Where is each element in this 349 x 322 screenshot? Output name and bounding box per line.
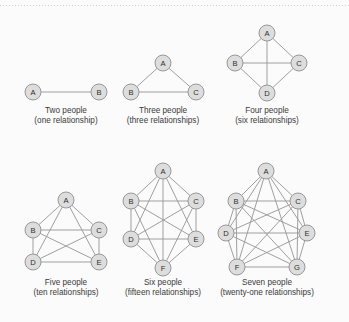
edge-DF <box>137 244 157 262</box>
caption-line1: Five people <box>45 278 88 287</box>
edge-EF <box>169 244 190 262</box>
node-label: D <box>264 89 270 98</box>
edge-AC <box>169 68 190 86</box>
node-label: F <box>161 264 166 273</box>
node-C: C <box>91 222 107 238</box>
graph-four-people: ABCDFour people(six relationships) <box>227 25 307 125</box>
caption-line2: (three relationships) <box>127 116 200 125</box>
node-C: C <box>291 55 307 71</box>
node-B: B <box>123 193 139 209</box>
edge-AB <box>241 38 261 57</box>
node-label: C <box>193 197 199 206</box>
node-label: B <box>232 59 237 68</box>
caption-line1: Three people <box>139 106 188 115</box>
node-label: B <box>233 197 238 206</box>
node-F: F <box>229 259 245 275</box>
node-A: A <box>25 84 41 100</box>
node-E: E <box>91 254 107 270</box>
edge-group <box>241 38 293 87</box>
caption-line1: Seven people <box>242 278 293 287</box>
node-A: A <box>58 192 74 208</box>
edge-AB <box>137 176 157 195</box>
node-B: B <box>227 55 243 71</box>
node-label: E <box>193 235 198 244</box>
caption-line2: (fifteen relationships) <box>125 288 201 297</box>
node-A: A <box>155 163 171 179</box>
node-B: B <box>25 222 41 238</box>
node-F: F <box>155 260 171 276</box>
node-label: C <box>96 226 102 235</box>
node-C: C <box>290 193 306 209</box>
edge-AB <box>137 68 157 86</box>
node-C: C <box>188 193 204 209</box>
node-label: B <box>30 226 35 235</box>
edge-AB <box>242 177 261 196</box>
node-E: E <box>188 231 204 247</box>
node-A: A <box>155 55 171 71</box>
node-D: D <box>123 231 139 247</box>
node-label: D <box>30 258 36 267</box>
caption-line1: Six people <box>144 278 183 287</box>
node-B: B <box>91 84 107 100</box>
edge-group <box>137 68 190 92</box>
edge-AC <box>273 38 293 57</box>
caption-line1: Four people <box>245 106 289 115</box>
node-B: B <box>123 84 139 100</box>
caption-line2: (twenty-one relationships) <box>220 288 314 297</box>
edge-group <box>131 176 196 262</box>
edge-DF <box>228 241 234 260</box>
node-label: E <box>304 229 309 238</box>
edge-EG <box>299 241 304 260</box>
edge-AC <box>72 205 93 224</box>
node-A: A <box>258 163 274 179</box>
node-label: B <box>128 88 133 97</box>
caption-line2: (ten relationships) <box>33 288 98 297</box>
node-A: A <box>259 25 275 41</box>
edge-AC <box>272 176 292 195</box>
node-C: C <box>188 84 204 100</box>
caption-line1: Two people <box>45 106 87 115</box>
graph-two-people: ABTwo people(one relationship) <box>25 84 107 125</box>
node-label: G <box>294 263 300 272</box>
node-B: B <box>228 193 244 209</box>
node-label: C <box>296 59 302 68</box>
edge-AC <box>169 176 190 195</box>
edge-group <box>33 205 99 262</box>
node-label: C <box>193 88 199 97</box>
graph-three-people: ABCThree people(three relationships) <box>123 55 204 125</box>
edge-BD <box>241 68 261 87</box>
edge-CG <box>297 209 298 259</box>
node-label: D <box>128 235 134 244</box>
edge-CD <box>273 68 293 87</box>
node-D: D <box>25 254 41 270</box>
node-label: E <box>96 258 101 267</box>
graph-six-people: ABCDEFSix people(fifteen relationships) <box>123 163 204 297</box>
edge-AF <box>239 179 263 260</box>
node-D: D <box>259 85 275 101</box>
caption-line2: (one relationship) <box>34 116 98 125</box>
edge-CE <box>300 209 305 226</box>
caption-line2: (six relationships) <box>235 116 299 125</box>
node-label: B <box>96 88 101 97</box>
node-E: E <box>299 225 315 241</box>
relationship-graphs-figure: ABTwo people(one relationship)ABCThree p… <box>0 0 349 322</box>
node-label: F <box>235 263 240 272</box>
node-label: D <box>223 229 229 238</box>
edge-group <box>228 176 304 267</box>
node-label: C <box>295 197 301 206</box>
node-G: G <box>289 259 305 275</box>
node-label: B <box>128 197 133 206</box>
node-D: D <box>218 225 234 241</box>
graph-five-people: ABCDEFive people(ten relationships) <box>25 192 107 297</box>
edge-AB <box>39 205 60 224</box>
graph-seven-people: ABCDEFGSeven people(twenty-one relations… <box>218 163 315 297</box>
